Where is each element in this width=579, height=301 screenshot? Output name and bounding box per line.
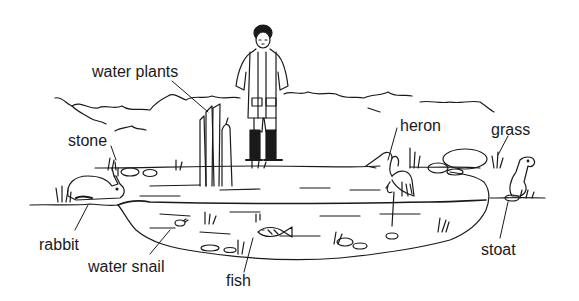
label-stone: stone — [68, 133, 107, 149]
fish-drawing — [256, 214, 292, 237]
label-stoat: stoat — [481, 242, 516, 258]
label-fish: fish — [226, 273, 251, 289]
label-rabbit: rabbit — [39, 237, 79, 253]
boy-drawing — [236, 25, 288, 160]
water-snail-drawing — [175, 219, 188, 226]
label-water-snail: water snail — [88, 259, 164, 275]
label-heron: heron — [400, 118, 441, 134]
ground-line — [30, 166, 545, 205]
rabbit-drawing — [68, 168, 124, 200]
water-plants-drawing — [200, 104, 232, 186]
label-grass: grass — [491, 122, 530, 138]
label-water-plants: water plants — [92, 64, 178, 80]
heron-drawing — [366, 152, 414, 226]
stoat-drawing — [505, 157, 535, 201]
pond-outline — [118, 172, 489, 260]
